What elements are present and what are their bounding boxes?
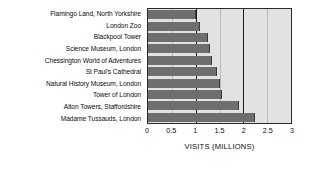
bar [148,113,255,122]
x-axis-title: VISITS (MILLIONS) [147,142,292,151]
category-axis-labels: Flamingo Land, North Yorkshire London Zo… [0,8,144,124]
category-label: Blackpool Tower [0,33,144,40]
bar-row [148,33,291,42]
bar [148,67,217,76]
bar [148,44,210,53]
bar [148,101,239,110]
bar-row [148,22,291,31]
category-label: Flamingo Land, North Yorkshire [0,10,144,17]
bar-row [148,90,291,99]
bar-row [148,10,291,19]
category-label: Tower of London [0,91,144,98]
x-tick-label: 0.5 [166,126,176,135]
bar-row [148,113,291,122]
x-tick-label: 3 [290,126,294,135]
category-label: Science Museum, London [0,45,144,52]
bar-row [148,67,291,76]
category-label: London Zoo [0,22,144,29]
bar [148,79,220,88]
bar [148,33,208,42]
bar [148,90,222,99]
bar-row [148,79,291,88]
bar [148,22,200,31]
bar-row [148,101,291,110]
bar-chart: Flamingo Land, North Yorkshire London Zo… [0,0,310,179]
category-label: Chessington World of Adventures [0,57,144,64]
plot-area [147,8,292,124]
x-tick-label: 2 [242,126,246,135]
x-tick-label: 1 [193,126,197,135]
x-tick-label: 1.5 [215,126,225,135]
bar [148,10,196,19]
gridline [291,9,292,123]
category-label: St Paul's Cathedral [0,68,144,75]
x-axis-tick-labels: 00.511.522.53 [147,126,292,136]
category-label: Alton Towers, Staffordshire [0,103,144,110]
bar [148,56,212,65]
x-tick-label: 0 [145,126,149,135]
category-label: Natural History Museum, London [0,80,144,87]
bar-series [148,9,291,123]
x-tick-label: 2.5 [263,126,273,135]
bar-row [148,56,291,65]
bar-row [148,44,291,53]
category-label: Madame Tussauds, London [0,115,144,122]
